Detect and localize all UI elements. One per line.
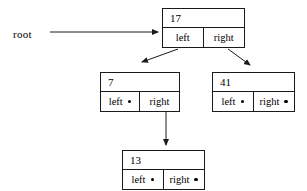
node-value: 7	[101, 73, 179, 92]
right-pointer-label: right	[170, 174, 190, 185]
node-right-pointer-cell[interactable]: right	[204, 28, 245, 47]
left-pointer-dot	[151, 178, 155, 182]
tree-diagram-canvas: root 17 left right 7 left right	[0, 0, 307, 191]
right-pointer-label: right	[260, 96, 280, 107]
root-label: root	[13, 28, 32, 40]
left-pointer-label: left	[132, 174, 146, 185]
node-value: 41	[213, 73, 294, 92]
node-pointer-row: left right	[123, 170, 204, 189]
node-value: 13	[123, 151, 204, 170]
tree-node-root[interactable]: 17 left right	[162, 8, 245, 48]
node17-left-arrow	[142, 49, 178, 62]
node-left-pointer-cell[interactable]: left	[101, 92, 140, 111]
tree-node-41[interactable]: 41 left right	[212, 72, 295, 112]
tree-node-13[interactable]: 13 left right	[122, 150, 205, 190]
right-pointer-label: right	[214, 32, 234, 43]
node-left-pointer-cell[interactable]: left	[213, 92, 254, 111]
node17-right-arrow	[228, 49, 250, 65]
node-pointer-row: left right	[101, 92, 179, 111]
node-right-pointer-cell[interactable]: right	[164, 170, 205, 189]
left-pointer-dot	[241, 100, 245, 104]
node-left-pointer-cell[interactable]: left	[163, 28, 204, 47]
right-pointer-dot	[194, 178, 198, 182]
node-pointer-row: left right	[213, 92, 294, 111]
right-pointer-label: right	[150, 96, 170, 107]
node-pointer-row: left right	[163, 28, 244, 47]
node-right-pointer-cell[interactable]: right	[254, 92, 295, 111]
left-pointer-label: left	[176, 32, 190, 43]
left-pointer-dot	[128, 100, 132, 104]
node-left-pointer-cell[interactable]: left	[123, 170, 164, 189]
left-pointer-label: left	[109, 96, 123, 107]
node-value: 17	[163, 9, 244, 28]
tree-node-7[interactable]: 7 left right	[100, 72, 180, 112]
node-right-pointer-cell[interactable]: right	[140, 92, 179, 111]
right-pointer-dot	[284, 100, 288, 104]
left-pointer-label: left	[222, 96, 236, 107]
